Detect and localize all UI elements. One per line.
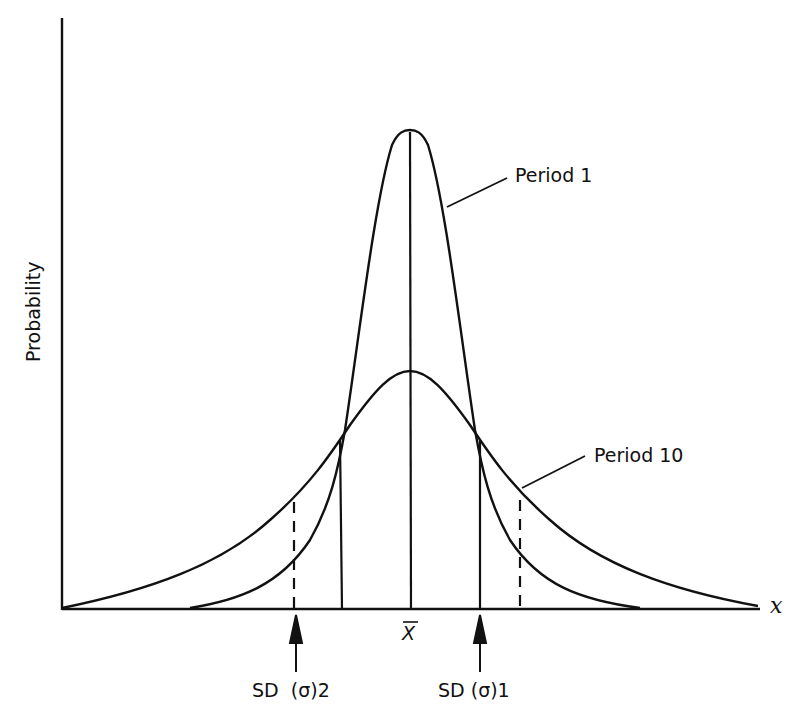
y-axis-label: Probability — [22, 262, 44, 362]
leader-lines — [447, 178, 585, 488]
period-1-curve — [190, 130, 640, 608]
period-1-leader — [447, 178, 507, 207]
sd1-arrow-head-icon — [474, 615, 486, 643]
mean-label: X — [401, 622, 416, 644]
sd1-label: SD (σ)1 — [438, 679, 510, 701]
x-axis-label: x — [770, 593, 783, 618]
sd2-label: SD (σ)2 — [252, 679, 330, 701]
period-10-label: Period 10 — [594, 444, 683, 466]
normal-distribution-diagram: Probability x Period 1 Period 10 X SD (σ… — [0, 0, 805, 719]
sd2-arrow-head-icon — [290, 615, 302, 643]
sd1-left-line — [340, 440, 342, 609]
period-1-label: Period 1 — [515, 164, 592, 186]
arrows — [290, 615, 486, 672]
period-10-leader — [522, 456, 585, 488]
mean-line — [410, 132, 411, 609]
